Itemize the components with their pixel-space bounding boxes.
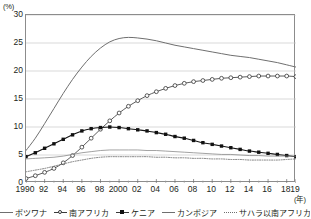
data-point-marker — [34, 151, 37, 154]
data-point-marker — [276, 153, 279, 156]
y-axis-tick: 10 — [1, 121, 23, 131]
data-point-marker — [266, 152, 269, 155]
x-axis-unit-label: (年) — [294, 193, 306, 204]
chart-legend: ボツワナ南アフリカケニアカンボジアサハラ以南アフリカ — [0, 207, 310, 219]
data-point-marker — [248, 75, 252, 79]
data-point-marker — [211, 143, 214, 146]
data-point-marker — [257, 74, 261, 78]
legend-item: サハラ以南アフリカ — [224, 207, 311, 218]
y-axis-tick: 20 — [1, 65, 23, 75]
data-point-marker — [108, 119, 112, 123]
data-point-marker — [294, 75, 296, 79]
data-point-marker — [192, 80, 196, 84]
data-point-marker — [220, 144, 223, 147]
data-point-marker — [127, 104, 131, 108]
legend-symbol-icon — [116, 209, 129, 217]
data-point-marker — [136, 128, 139, 131]
data-point-marker — [238, 148, 241, 151]
data-point-marker — [145, 129, 148, 132]
data-point-marker — [154, 90, 158, 94]
data-point-marker — [52, 142, 55, 145]
data-point-marker — [201, 141, 204, 144]
x-axis-tick: 06 — [169, 184, 178, 194]
data-point-marker — [26, 177, 28, 181]
data-point-marker — [248, 149, 251, 152]
x-axis-tick: 96 — [76, 184, 85, 194]
y-axis-tick: 5 — [1, 149, 23, 159]
data-point-marker — [294, 155, 296, 158]
legend-symbol-icon — [0, 209, 13, 217]
data-point-marker — [145, 94, 149, 98]
data-point-marker — [127, 127, 130, 130]
x-axis-tick: 14 — [244, 184, 253, 194]
y-axis-tick: 25 — [1, 37, 23, 47]
x-axis-tick: 10 — [206, 184, 215, 194]
data-point-marker — [229, 76, 233, 80]
data-point-marker — [285, 154, 288, 157]
x-axis-tick: 18 — [281, 184, 290, 194]
data-point-marker — [257, 151, 260, 154]
data-point-marker — [164, 133, 167, 136]
data-point-marker — [192, 139, 195, 142]
legend-item: ボツワナ — [0, 207, 47, 218]
x-axis-tick: 12 — [225, 184, 234, 194]
data-point-marker — [210, 78, 214, 82]
x-axis-tick: 16 — [262, 184, 271, 194]
legend-label: ボツワナ — [15, 207, 47, 218]
legend-label: ケニア — [131, 207, 155, 218]
legend-item: ケニア — [116, 207, 155, 218]
series-dotted-line — [26, 157, 296, 172]
legend-symbol-icon — [162, 209, 175, 217]
data-point-marker — [155, 131, 158, 134]
y-axis-tick: 30 — [1, 9, 23, 19]
x-axis-tick: 08 — [188, 184, 197, 194]
x-axis-tick: 98 — [95, 184, 104, 194]
data-point-marker — [238, 75, 242, 79]
plot-lines-svg — [26, 15, 296, 183]
legend-item: カンボジア — [162, 207, 217, 218]
data-point-marker — [43, 147, 46, 150]
x-axis-tick: 1990 — [16, 184, 35, 194]
data-point-marker — [62, 138, 65, 141]
series-filled-square — [26, 125, 296, 158]
legend-label: 南アフリカ — [69, 207, 109, 218]
data-point-marker — [201, 79, 205, 83]
data-point-marker — [26, 155, 28, 158]
y-axis-tick: 15 — [1, 93, 23, 103]
data-point-marker — [71, 133, 74, 136]
data-point-marker — [43, 170, 47, 174]
data-point-marker — [182, 81, 186, 85]
data-point-marker — [89, 127, 92, 130]
data-point-marker — [99, 126, 102, 129]
series-line — [26, 157, 296, 172]
data-point-marker — [275, 74, 279, 78]
x-axis-tick: 2000 — [109, 184, 128, 194]
legend-symbol-icon — [224, 209, 237, 217]
data-point-marker — [220, 76, 224, 80]
data-point-marker — [33, 174, 37, 178]
data-point-marker — [285, 74, 289, 78]
data-point-marker — [164, 86, 168, 90]
series-line — [26, 127, 296, 157]
data-point-marker — [183, 137, 186, 140]
data-point-marker — [173, 135, 176, 138]
x-axis-tick: 94 — [58, 184, 67, 194]
data-point-marker — [266, 74, 270, 78]
legend-item: 南アフリカ — [54, 207, 109, 218]
data-point-marker — [52, 167, 56, 171]
plot-area — [25, 14, 295, 182]
data-point-marker — [80, 129, 83, 132]
data-point-marker — [117, 111, 121, 115]
legend-symbol-icon — [54, 209, 67, 217]
data-point-marker — [136, 99, 140, 103]
legend-label: サハラ以南アフリカ — [239, 207, 311, 218]
data-point-marker — [117, 126, 120, 129]
x-axis-tick: 92 — [39, 184, 48, 194]
x-axis-tick: 04 — [151, 184, 160, 194]
data-point-marker — [108, 125, 111, 128]
data-point-marker — [173, 84, 177, 88]
data-point-marker — [89, 136, 93, 140]
chart-container: (%) 051015202530 19909294969820000204060… — [0, 0, 310, 219]
data-point-marker — [229, 146, 232, 149]
data-point-marker — [80, 145, 84, 149]
